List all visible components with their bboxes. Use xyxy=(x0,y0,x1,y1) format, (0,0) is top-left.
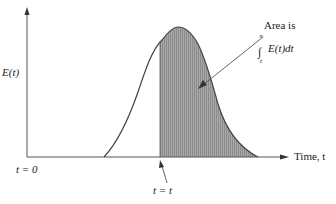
y-axis-arrow-icon xyxy=(25,7,30,15)
area-label: Area is xyxy=(264,19,295,31)
integral-lower-limit: t xyxy=(260,57,262,65)
area-pointer-line xyxy=(203,37,263,85)
cut-pointer-line xyxy=(162,166,167,183)
x-axis-label: Time, t xyxy=(294,150,325,162)
cut-label: t = t xyxy=(153,184,172,196)
clipped-header-text xyxy=(0,0,336,1)
cut-pointer-arrow-icon xyxy=(159,160,164,168)
origin-label: t = 0 xyxy=(16,163,37,175)
integral-body: E(t)dt xyxy=(268,42,294,54)
y-axis-label: E(t) xyxy=(2,66,19,78)
integral-upper-limit: ∞ xyxy=(259,33,263,39)
x-axis-arrow-icon xyxy=(280,155,289,160)
